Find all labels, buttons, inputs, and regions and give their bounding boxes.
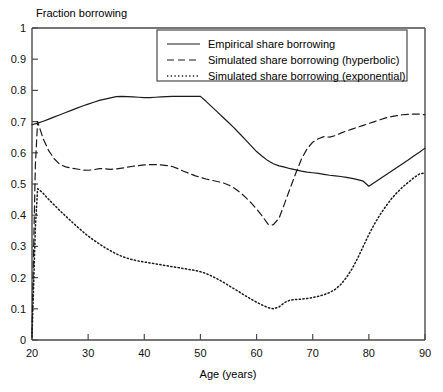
y-tick-label: 0.9: [11, 53, 26, 65]
chart-svg: Fraction borrowing 00.10.20.30.40.50.60.…: [0, 0, 443, 392]
x-tick-label: 20: [26, 347, 38, 359]
x-tick-label: 30: [82, 347, 94, 359]
legend-label-0: Empirical share borrowing: [208, 38, 335, 50]
y-tick-label: 0.1: [11, 303, 26, 315]
y-tick-label: 0.6: [11, 147, 26, 159]
chart-figure: Fraction borrowing 00.10.20.30.40.50.60.…: [0, 0, 443, 392]
y-tick-label: 0.4: [11, 209, 26, 221]
y-tick-label: 1: [20, 22, 26, 34]
x-tick-label: 90: [419, 347, 431, 359]
legend-label-2: Simulated share borrowing (exponential): [208, 70, 406, 82]
y-tick-label: 0.8: [11, 84, 26, 96]
x-tick-label: 60: [250, 347, 262, 359]
x-tick-label: 80: [363, 347, 375, 359]
y-tick-label: 0.7: [11, 116, 26, 128]
y-tick-label: 0.3: [11, 240, 26, 252]
x-tick-label: 50: [194, 347, 206, 359]
legend-label-1: Simulated share borrowing (hyperbolic): [208, 54, 399, 66]
y-tick-label: 0: [20, 334, 26, 346]
y-axis-title: Fraction borrowing: [36, 7, 127, 19]
y-tick-label: 0.5: [11, 178, 26, 190]
x-tick-label: 70: [307, 347, 319, 359]
chart-legend: Empirical share borrowingSimulated share…: [157, 30, 407, 82]
x-tick-label: 40: [138, 347, 150, 359]
y-tick-label: 0.2: [11, 272, 26, 284]
x-axis-title: Age (years): [200, 368, 257, 380]
